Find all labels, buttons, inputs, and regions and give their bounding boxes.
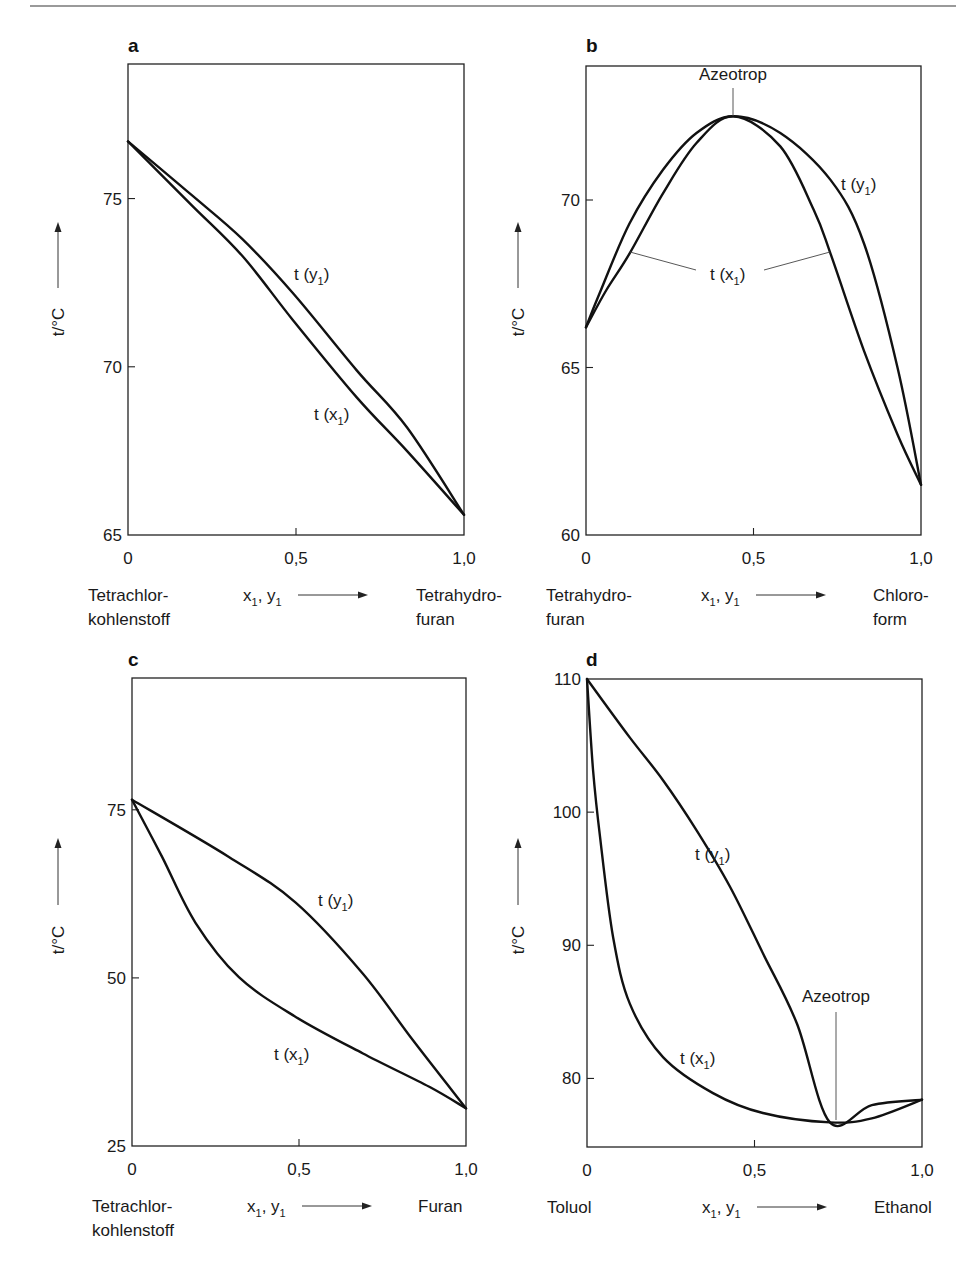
- y-axis-arrowhead-icon: [55, 838, 62, 848]
- plot-frame: [586, 66, 921, 535]
- curve-t-x1: [128, 141, 464, 514]
- y-tick-label: 70: [103, 358, 122, 377]
- plot-frame: [128, 64, 464, 535]
- x-tick-label: 1,0: [454, 1160, 478, 1179]
- x-axis-label: x1, y1: [702, 1198, 741, 1220]
- y-axis-arrowhead-icon: [55, 222, 62, 232]
- x-axis-arrowhead-icon: [362, 1203, 372, 1210]
- x-tick-label: 0,5: [284, 549, 308, 568]
- azeotrope-label: Azeotrop: [802, 987, 870, 1006]
- x-tick-label: 0,5: [287, 1160, 311, 1179]
- y-tick-label: 65: [561, 359, 580, 378]
- y-tick-label: 65: [103, 526, 122, 545]
- left-component-label: Tetrahydro-: [546, 586, 632, 605]
- x-tick-label: 0: [127, 1160, 136, 1179]
- y-axis-arrowhead-icon: [515, 838, 522, 848]
- left-component-label: kohlenstoff: [88, 610, 170, 629]
- x-tick-label: 0,5: [743, 1161, 767, 1180]
- x-axis-arrowhead-icon: [816, 592, 826, 599]
- panel-c: c25507500,51,0Tetrachlor-kohlenstoffFura…: [49, 649, 478, 1240]
- y-tick-label: 75: [103, 190, 122, 209]
- left-component-label: kohlenstoff: [92, 1221, 174, 1240]
- label-t-y1: t (y1): [695, 845, 730, 867]
- left-component-label: furan: [546, 610, 585, 629]
- panels: a65707500,51,0Tetrachlor-kohlenstoffTetr…: [49, 35, 934, 1240]
- figure: a65707500,51,0Tetrachlor-kohlenstoffTetr…: [0, 0, 971, 1266]
- y-axis-label: t/°C: [509, 926, 528, 955]
- right-component-label: furan: [416, 610, 455, 629]
- x-axis-arrowhead-icon: [817, 1204, 827, 1211]
- y-tick-label: 70: [561, 191, 580, 210]
- x-tick-label: 0: [582, 1161, 591, 1180]
- y-tick-label: 75: [107, 801, 126, 820]
- y-tick-label: 60: [561, 526, 580, 545]
- x-tick-label: 0: [581, 549, 590, 568]
- y-axis-label: t/°C: [49, 926, 68, 955]
- curve-t-y1: [587, 679, 922, 1126]
- right-component-label: Tetrahydro-: [416, 586, 502, 605]
- x-tick-label: 1,0: [909, 549, 933, 568]
- panel-letter: a: [128, 35, 139, 56]
- right-component-label: Ethanol: [874, 1198, 932, 1217]
- x-tick-label: 0,5: [742, 549, 766, 568]
- y-tick-label: 100: [553, 803, 581, 822]
- y-tick-label: 110: [554, 670, 581, 689]
- y-tick-label: 80: [562, 1069, 581, 1088]
- y-axis-label: t/°C: [49, 308, 68, 337]
- x-axis-label: x1, y1: [243, 586, 282, 608]
- curve-t-y1: [586, 116, 921, 485]
- x-tick-label: 0: [123, 549, 132, 568]
- panel-b: b60657000,51,0Tetrahydro-furanChloro-for…: [509, 35, 933, 629]
- azeotrope-label: Azeotrop: [699, 65, 767, 84]
- x-tick-label: 1,0: [452, 549, 476, 568]
- panel-letter: b: [586, 35, 598, 56]
- label-t-y1: t (y1): [841, 175, 876, 197]
- plot-frame: [132, 678, 466, 1146]
- label-t-y1: t (y1): [318, 891, 353, 913]
- label-t-x1: t (x1): [710, 265, 745, 287]
- callout-leader: [764, 252, 830, 270]
- label-t-x1: t (x1): [274, 1045, 309, 1067]
- x-axis-arrowhead-icon: [358, 592, 368, 599]
- x-tick-label: 1,0: [910, 1161, 934, 1180]
- left-component-label: Tetrachlor-: [92, 1197, 172, 1216]
- right-component-label: Chloro-: [873, 586, 929, 605]
- y-tick-label: 50: [107, 969, 126, 988]
- right-component-label: Furan: [418, 1197, 462, 1216]
- y-tick-label: 25: [107, 1137, 126, 1156]
- panel-letter: c: [128, 649, 139, 670]
- curve-t-x1: [586, 116, 921, 485]
- panel-a: a65707500,51,0Tetrachlor-kohlenstoffTetr…: [49, 35, 502, 629]
- plot-frame: [587, 679, 922, 1147]
- label-t-y1: t (y1): [294, 265, 329, 287]
- label-t-x1: t (x1): [314, 405, 349, 427]
- callout-leader: [630, 252, 696, 270]
- y-axis-arrowhead-icon: [515, 222, 522, 232]
- left-component-label: Toluol: [547, 1198, 591, 1217]
- x-axis-label: x1, y1: [701, 586, 740, 608]
- x-axis-label: x1, y1: [247, 1197, 286, 1219]
- y-axis-label: t/°C: [509, 308, 528, 337]
- y-tick-label: 90: [562, 936, 581, 955]
- right-component-label: form: [873, 610, 907, 629]
- left-component-label: Tetrachlor-: [88, 586, 168, 605]
- panel-letter: d: [586, 649, 598, 670]
- label-t-x1: t (x1): [680, 1049, 715, 1071]
- panel-d: d809010011000,51,0ToluolEthanolx1, y1t/°…: [509, 649, 934, 1220]
